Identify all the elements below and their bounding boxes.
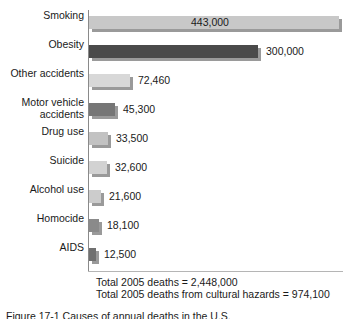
bar[interactable] xyxy=(89,132,108,145)
figure-container: Smoking443,000Obesity300,000Other accide… xyxy=(0,0,351,319)
bar-wrapper xyxy=(89,39,262,68)
bar-row: Alcohol use21,600 xyxy=(0,184,351,213)
value-label: 12,500 xyxy=(104,247,136,261)
bar[interactable] xyxy=(89,161,107,174)
category-label: Smoking xyxy=(0,10,84,22)
total-cultural-hazards-line: Total 2005 deaths from cultural hazards … xyxy=(96,289,330,301)
bar[interactable] xyxy=(89,103,115,116)
bar[interactable] xyxy=(89,219,99,232)
category-label: AIDS xyxy=(0,242,84,254)
bar[interactable] xyxy=(89,248,96,261)
value-label: 32,600 xyxy=(115,160,147,174)
bar-row: Other accidents72,460 xyxy=(0,68,351,97)
bar-wrapper xyxy=(89,155,111,184)
bar-rows: Smoking443,000Obesity300,000Other accide… xyxy=(0,10,351,271)
bar-row: Smoking443,000 xyxy=(0,10,351,39)
total-deaths-line: Total 2005 deaths = 2,448,000 xyxy=(96,277,330,289)
value-label: 33,500 xyxy=(116,131,148,145)
bar-row: Homocide18,100 xyxy=(0,213,351,242)
value-label: 443,000 xyxy=(191,15,229,29)
bar-row: Suicide32,600 xyxy=(0,155,351,184)
category-label: Other accidents xyxy=(0,68,84,80)
totals-annotation: Total 2005 deaths = 2,448,000 Total 2005… xyxy=(96,277,330,300)
bar[interactable] xyxy=(89,74,130,87)
value-label: 18,100 xyxy=(107,218,139,232)
category-label: Homocide xyxy=(0,213,84,225)
bar-row: Motor vehicle accidents45,300 xyxy=(0,97,351,126)
category-label: Drug use xyxy=(0,126,84,138)
bar-wrapper xyxy=(89,97,119,126)
category-label: Motor vehicle accidents xyxy=(0,97,84,120)
category-label: Obesity xyxy=(0,39,84,51)
value-label: 72,460 xyxy=(138,73,170,87)
value-label: 21,600 xyxy=(109,189,141,203)
bar-row: Drug use33,500 xyxy=(0,126,351,155)
bar[interactable] xyxy=(89,190,101,203)
bar-wrapper xyxy=(89,213,103,242)
bar-row: Obesity300,000 xyxy=(0,39,351,68)
figure-caption: Figure 17-1 Causes of annual deaths in t… xyxy=(6,310,231,319)
x-axis-line xyxy=(88,271,343,272)
bar-wrapper xyxy=(89,126,112,155)
bar-row: AIDS12,500 xyxy=(0,242,351,271)
bar-wrapper xyxy=(89,68,134,97)
bar-wrapper xyxy=(89,184,105,213)
bar[interactable] xyxy=(89,45,258,58)
value-label: 300,000 xyxy=(266,44,304,58)
category-label: Alcohol use xyxy=(0,184,84,196)
bar-wrapper xyxy=(89,242,100,271)
category-label: Suicide xyxy=(0,155,84,167)
value-label: 45,300 xyxy=(123,102,155,116)
